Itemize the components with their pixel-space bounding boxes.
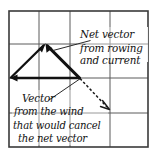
net-vector-label-line-3: and current: [80, 54, 141, 66]
net-vector-label-line-1: Net vector: [79, 28, 135, 40]
wind-vector-label-line-2: from the wind: [13, 106, 84, 117]
wind-vector-label-line-1: Vector: [22, 92, 56, 104]
net-vector-label: Net vector from rowing and current: [79, 28, 143, 66]
vectors-group: [10, 44, 80, 82]
diagram-canvas: Net vector from rowing and current Vecto…: [0, 0, 159, 160]
wind-vector-label-line-4: the net vector: [18, 133, 88, 144]
net-vector-shaft: [48, 46, 80, 78]
vector-diagram-figure: Net vector from rowing and current Vecto…: [0, 0, 159, 160]
net-vector-label-line-2: from rowing: [79, 42, 143, 54]
wind-vector-label-line-3: that would cancel: [13, 120, 101, 131]
rowing-vector-arrowhead: [39, 44, 46, 53]
